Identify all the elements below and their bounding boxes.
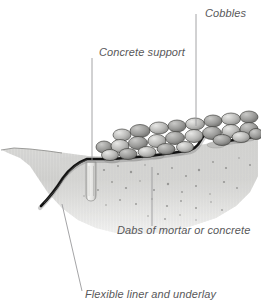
diagram-root: Cobbles Concrete support Dabs of mortar … [0, 0, 261, 304]
label-cobbles: Cobbles [205, 7, 246, 19]
label-concrete-support: Concrete support [99, 46, 185, 58]
label-dabs-of-mortar: Dabs of mortar or concrete [117, 224, 250, 236]
concrete-support-block [86, 162, 96, 201]
label-flexible-liner: Flexible liner and underlay [85, 288, 216, 300]
